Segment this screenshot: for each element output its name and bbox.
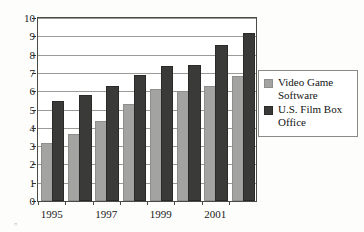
y-axis-tick-mark [32, 110, 36, 111]
plot-area [37, 17, 257, 202]
y-axis: 012345678910 [0, 0, 35, 232]
scan-artifact: ▫ [14, 222, 21, 227]
x-axis-tick-mark [38, 201, 39, 205]
bar-1997-series-1 [106, 86, 119, 201]
bar-series-layer [38, 18, 256, 201]
x-axis-tick-label: 1999 [150, 209, 172, 220]
y-axis-tick-mark [32, 201, 36, 202]
y-axis-tick-mark [32, 164, 36, 165]
y-axis-tick-mark [32, 73, 36, 74]
y-axis-tick-mark [32, 128, 36, 129]
y-axis-tick-mark [32, 183, 36, 184]
gray-square-icon [264, 79, 273, 88]
bar-2002-series-1 [243, 33, 256, 201]
x-axis-tick-mark [65, 201, 66, 205]
legend-label-1: U.S. Film Box Office [278, 103, 353, 129]
dark-square-icon [264, 106, 273, 115]
x-axis-tick-label: 1997 [95, 209, 117, 220]
bar-1996-series-1 [79, 95, 92, 201]
legend-item-us-film-box-office: U.S. Film Box Office [264, 103, 353, 129]
y-axis-tick-mark [32, 91, 36, 92]
y-axis-tick-mark [32, 18, 36, 19]
x-axis-tick-mark [229, 201, 230, 205]
x-axis-tick-mark [147, 201, 148, 205]
x-axis-tick-mark [174, 201, 175, 205]
bar-1998-series-1 [134, 75, 147, 201]
x-axis-tick-mark [202, 201, 203, 205]
legend-item-video-game-software: Video Game Software [264, 76, 353, 102]
bar-2000-series-1 [188, 65, 201, 202]
bar-chart-figure: 012345678910 Video Game Software U.S. Fi… [0, 0, 364, 232]
bar-1995-series-1 [52, 101, 65, 201]
legend-label-0: Video Game Software [278, 76, 353, 102]
chart-legend: Video Game Software U.S. Film Box Office [258, 70, 358, 137]
y-axis-tick-mark [32, 146, 36, 147]
x-axis-tick-label: 1995 [41, 209, 63, 220]
y-axis-tick-mark [32, 55, 36, 56]
bar-2001-series-1 [215, 45, 228, 201]
y-axis-tick-mark [32, 36, 36, 37]
x-axis-tick-label: 2001 [204, 209, 226, 220]
bar-1999-series-1 [161, 66, 174, 201]
x-axis-tick-mark [120, 201, 121, 205]
x-axis-tick-mark [93, 201, 94, 205]
